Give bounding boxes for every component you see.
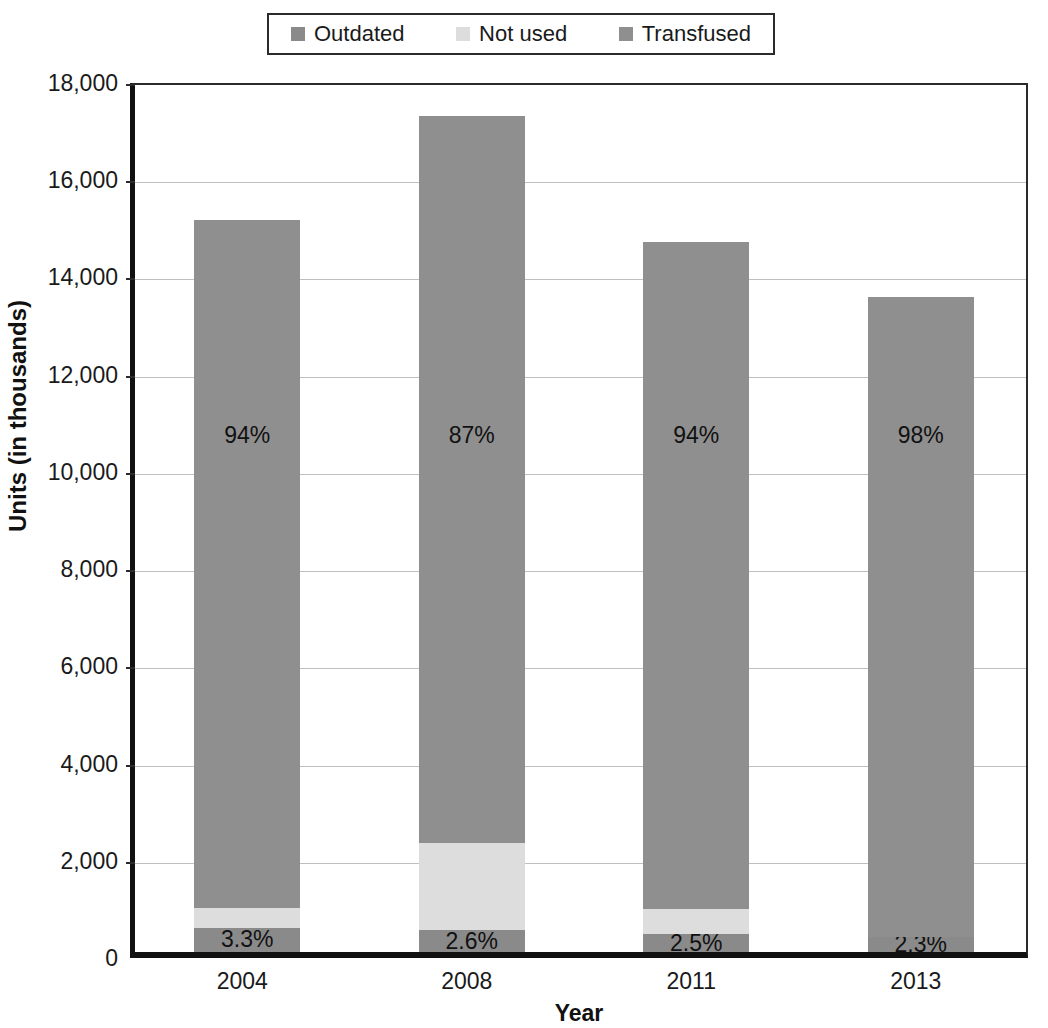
x-axis-tick-labels: 2004200820112013 xyxy=(130,968,1028,1000)
legend-swatch-transfused xyxy=(619,27,633,41)
y-axis-tick-label: 4,000 xyxy=(60,750,118,777)
y-axis-tick-mark xyxy=(126,667,135,669)
bar-segment-not-used[interactable] xyxy=(643,909,749,934)
y-axis-tick-label: 2,000 xyxy=(60,847,118,874)
y-axis-tick-mark xyxy=(126,473,135,475)
y-axis-tick-label: 12,000 xyxy=(48,361,118,388)
y-axis-tick-mark xyxy=(126,84,135,86)
bar-segment-not-used[interactable] xyxy=(419,843,525,930)
bar-segment-outdated[interactable]: 2.5% xyxy=(643,934,749,952)
y-axis-tick-label: 16,000 xyxy=(48,167,118,194)
legend-swatch-outdated xyxy=(291,27,305,41)
y-axis-tick-label: 0 xyxy=(105,945,118,972)
legend-label-outdated: Outdated xyxy=(314,23,405,45)
chart-legend: Outdated Not used Transfused xyxy=(267,13,775,55)
bar-segment-not-used[interactable] xyxy=(194,908,300,928)
bar-stack[interactable]: 3.3%94% xyxy=(194,220,300,952)
bar-segment-label: 94% xyxy=(673,424,719,447)
bar-segment-label: 87% xyxy=(449,424,495,447)
bar-segment-label: 3.3% xyxy=(221,928,273,951)
bar-segment-transfused[interactable]: 94% xyxy=(194,220,300,908)
bar-segment-outdated[interactable]: 3.3% xyxy=(194,928,300,952)
bar-segment-label: 94% xyxy=(224,424,270,447)
y-axis-tick-mark xyxy=(126,278,135,280)
legend-label-not-used: Not used xyxy=(479,23,567,45)
bar-segment-transfused[interactable]: 94% xyxy=(643,242,749,909)
y-axis-tick-label: 10,000 xyxy=(48,458,118,485)
y-axis-tick-labels: 02,0004,0006,0008,00010,00012,00014,0001… xyxy=(0,83,118,958)
y-axis-tick-label: 18,000 xyxy=(48,70,118,97)
legend-item-transfused[interactable]: Transfused xyxy=(619,23,751,45)
y-axis-tick-mark xyxy=(126,862,135,864)
gridline xyxy=(135,182,1026,183)
bar-segment-label: 98% xyxy=(898,424,944,447)
bar-stack[interactable]: 2.6%87% xyxy=(419,116,525,952)
plot-inner: 3.3%94%2.6%87%2.5%94%2.3%98% xyxy=(135,85,1026,952)
plot-area: 3.3%94%2.6%87%2.5%94%2.3%98% xyxy=(130,83,1028,958)
legend-label-transfused: Transfused xyxy=(642,23,751,45)
bar-segment-outdated[interactable]: 2.6% xyxy=(419,930,525,952)
y-axis-tick-mark xyxy=(126,570,135,572)
x-axis-title: Year xyxy=(130,1000,1028,1027)
x-axis-tick-label: 2011 xyxy=(667,968,716,995)
bar-segment-label: 2.6% xyxy=(446,930,498,953)
legend-item-outdated[interactable]: Outdated xyxy=(291,23,405,45)
legend-swatch-not-used xyxy=(456,27,470,41)
bar-stack[interactable]: 2.3%98% xyxy=(868,297,974,952)
legend-item-not-used[interactable]: Not used xyxy=(456,23,567,45)
x-axis-tick-label: 2004 xyxy=(217,968,268,995)
bar-segment-label: 2.5% xyxy=(670,932,722,955)
y-axis-tick-mark xyxy=(126,765,135,767)
bar-segment-transfused[interactable]: 87% xyxy=(419,116,525,843)
bar-segment-outdated[interactable]: 2.3% xyxy=(868,937,974,952)
y-axis-tick-mark xyxy=(126,181,135,183)
y-axis-tick-label: 8,000 xyxy=(60,556,118,583)
bar-stack[interactable]: 2.5%94% xyxy=(643,242,749,952)
y-axis-tick-mark xyxy=(126,376,135,378)
x-axis-tick-label: 2013 xyxy=(890,968,941,995)
x-axis-tick-label: 2008 xyxy=(441,968,492,995)
y-axis-tick-label: 6,000 xyxy=(60,653,118,680)
y-axis-tick-label: 14,000 xyxy=(48,264,118,291)
bar-segment-transfused[interactable]: 98% xyxy=(868,297,974,937)
chart-figure: Outdated Not used Transfused Units (in t… xyxy=(0,0,1048,1028)
